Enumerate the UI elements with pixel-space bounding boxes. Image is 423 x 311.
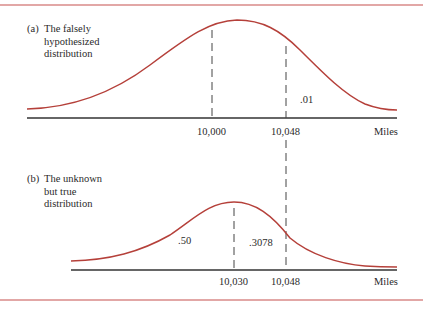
panel-b-area-label-middle: .3078	[249, 237, 273, 249]
panel-b-plot	[71, 202, 397, 270]
panel-b-title-line-2: but true	[27, 186, 102, 199]
panel-b-tick-10030: 10,030	[219, 276, 248, 288]
panel-a-title-line-1: The falsely	[44, 23, 91, 34]
panel-a-title-line-3: distribution	[27, 48, 99, 61]
panel-b-tick-10048: 10,048	[271, 276, 300, 288]
panel-b-title: (b)The unknown but true distribution	[27, 173, 102, 211]
panel-b-title-line-3: distribution	[27, 198, 102, 211]
panel-a-title: (a)The falsely hypothesized distribution	[27, 23, 99, 61]
panel-b-prefix: (b)	[27, 173, 44, 186]
panel-a-area-label: .01	[300, 94, 313, 106]
panel-a-tick-10000: 10,000	[197, 126, 226, 138]
panel-a-axis-unit: Miles	[374, 126, 398, 138]
panel-b-title-line-1: The unknown	[44, 173, 102, 184]
panel-a-tick-10048: 10,048	[271, 126, 300, 138]
panel-b-axis-unit: Miles	[374, 276, 398, 288]
panel-a-title-line-2: hypothesized	[27, 36, 99, 49]
panel-b-area-label-left: .50	[178, 235, 191, 247]
panel-a-prefix: (a)	[27, 23, 44, 36]
